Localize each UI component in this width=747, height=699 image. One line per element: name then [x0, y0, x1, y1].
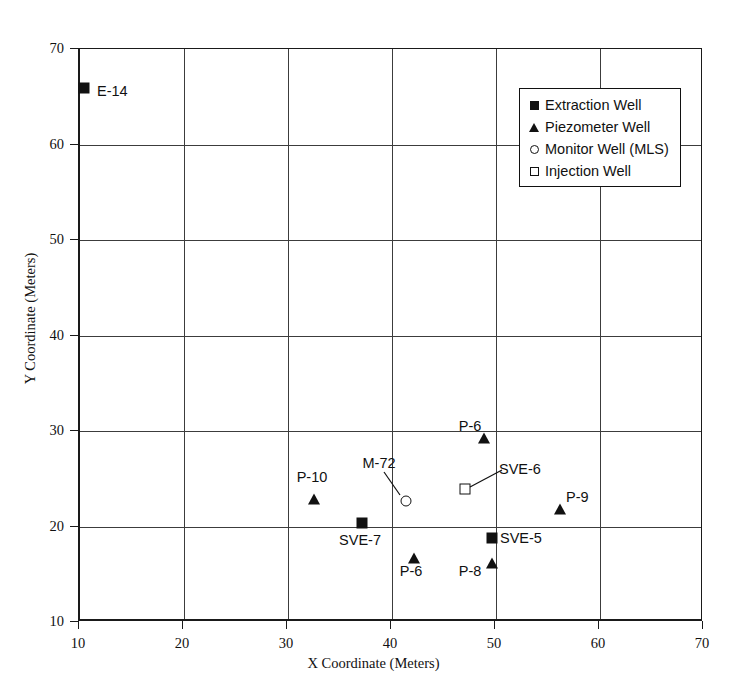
x-axis-tick-label: 40: [383, 635, 398, 652]
x-axis-tick-label: 10: [71, 635, 86, 652]
legend-marker-filled-square-icon: [527, 101, 541, 110]
gridline-horizontal: [80, 527, 701, 528]
data-point-p-10: [308, 493, 320, 504]
point-label-p-8: P-8: [459, 563, 482, 579]
data-point-p-9: [554, 504, 566, 515]
legend-label: Extraction Well: [545, 97, 641, 113]
x-axis-tick: [494, 621, 495, 629]
data-point-sve-6: [459, 484, 470, 495]
legend-item-3: Injection Well: [527, 160, 680, 182]
legend-swatch: [530, 101, 539, 110]
y-axis-tick: [70, 239, 78, 240]
x-axis-tick-label: 20: [175, 635, 190, 652]
gridline-vertical: [184, 49, 185, 619]
data-point-p-8: [486, 557, 498, 568]
legend-swatch: [530, 145, 539, 154]
point-label-sve-5: SVE-5: [500, 530, 542, 546]
y-axis-tick-label: 70: [26, 40, 64, 57]
x-axis-tick: [702, 621, 703, 629]
legend-item-0: Extraction Well: [527, 94, 680, 116]
x-axis-tick: [390, 621, 391, 629]
y-axis-tick: [70, 430, 78, 431]
point-label-p-9: P-9: [566, 489, 589, 505]
y-axis-tick-label: 10: [26, 613, 64, 630]
data-point-sve-5: [486, 532, 497, 543]
x-axis-tick-label: 50: [487, 635, 502, 652]
point-label-m-72: M-72: [362, 455, 395, 471]
legend-marker-open-square-icon: [527, 167, 541, 176]
y-axis-title: Y Coordinate (Meters): [22, 219, 39, 419]
y-axis-tick-label: 20: [26, 517, 64, 534]
y-axis-tick: [70, 48, 78, 49]
y-axis-tick-label: 40: [26, 326, 64, 343]
legend-marker-filled-triangle-icon: [527, 123, 541, 132]
gridline-horizontal: [80, 240, 701, 241]
legend-marker-open-circle-icon: [527, 145, 541, 154]
x-axis-tick: [182, 621, 183, 629]
x-axis-tick: [598, 621, 599, 629]
y-axis-tick: [70, 621, 78, 622]
x-axis-tick-label: 70: [695, 635, 710, 652]
legend-label: Piezometer Well: [545, 119, 650, 135]
point-label-e-14: E-14: [97, 83, 128, 99]
y-axis-tick: [70, 526, 78, 527]
gridline-horizontal: [80, 431, 701, 432]
legend-item-1: Piezometer Well: [527, 116, 680, 138]
point-label-sve-7: SVE-7: [339, 532, 381, 548]
legend-swatch: [530, 167, 539, 176]
data-point-p-6: [408, 553, 420, 564]
x-axis-tick-label: 60: [591, 635, 606, 652]
y-axis-tick-label: 50: [26, 231, 64, 248]
legend-swatch: [529, 123, 539, 132]
x-axis-tick: [286, 621, 287, 629]
point-label-p-6: P-6: [459, 418, 482, 434]
gridline-horizontal: [80, 336, 701, 337]
point-label-p-10: P-10: [297, 469, 328, 485]
legend-item-2: Monitor Well (MLS): [527, 138, 680, 160]
data-point-e-14: [79, 83, 90, 94]
legend-label: Monitor Well (MLS): [545, 141, 669, 157]
gridline-vertical: [392, 49, 393, 619]
chart-legend: Extraction WellPiezometer WellMonitor We…: [519, 88, 681, 187]
data-point-sve-7: [356, 517, 367, 528]
point-label-p-6: P-6: [400, 563, 423, 579]
y-axis-tick: [70, 335, 78, 336]
x-axis-title: X Coordinate (Meters): [0, 655, 747, 672]
x-axis-tick-label: 30: [279, 635, 294, 652]
well-location-scatter-chart: Y Coordinate (Meters) X Coordinate (Mete…: [0, 0, 747, 699]
data-point-m-72: [400, 495, 411, 506]
y-axis-tick-label: 30: [26, 422, 64, 439]
point-label-sve-6: SVE-6: [499, 461, 541, 477]
y-axis-tick-label: 60: [26, 135, 64, 152]
gridline-vertical: [288, 49, 289, 619]
x-axis-tick: [78, 621, 79, 629]
y-axis-tick: [70, 144, 78, 145]
legend-label: Injection Well: [545, 163, 631, 179]
